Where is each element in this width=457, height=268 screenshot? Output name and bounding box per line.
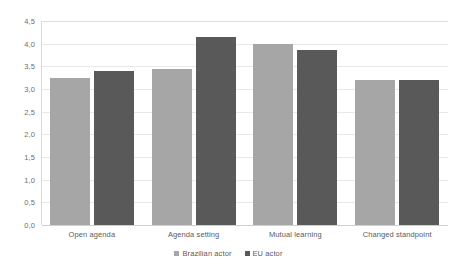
bar — [152, 69, 192, 225]
legend-swatch-icon — [174, 251, 179, 256]
y-tick-label: 1,5 — [24, 153, 35, 162]
bar — [94, 71, 134, 225]
bar — [253, 44, 293, 225]
legend-label: EU actor — [253, 249, 283, 258]
bar-group — [346, 21, 448, 225]
bars-layer — [41, 21, 448, 225]
bar — [297, 50, 337, 225]
chart-legend: Brazilian actorEU actor — [0, 249, 457, 258]
x-tick-label: Mutual learning — [269, 230, 322, 239]
legend-swatch-icon — [245, 251, 250, 256]
y-tick-label: 4,0 — [24, 39, 35, 48]
x-tick-label: Open agenda — [69, 230, 116, 239]
y-axis: 4,54,03,53,02,52,01,51,00,50,0 — [0, 0, 41, 246]
y-tick-label: 2,5 — [24, 107, 35, 116]
bar-group — [41, 21, 143, 225]
gridline — [42, 225, 448, 226]
x-axis: Open agendaAgenda settingMutual learning… — [41, 230, 448, 244]
legend-item[interactable]: EU actor — [245, 249, 283, 258]
legend-item[interactable]: Brazilian actor — [174, 249, 231, 258]
y-tick-label: 2,0 — [24, 130, 35, 139]
y-tick-label: 3,5 — [24, 62, 35, 71]
x-tick-label: Changed standpoint — [363, 230, 432, 239]
y-tick-label: 3,0 — [24, 85, 35, 94]
bar — [196, 37, 236, 225]
bar-chart: 4,54,03,53,02,52,01,51,00,50,0 Open agen… — [0, 0, 457, 268]
bar-group — [143, 21, 245, 225]
bar — [399, 80, 439, 225]
legend-label: Brazilian actor — [182, 249, 231, 258]
y-tick-label: 4,5 — [24, 17, 35, 26]
bar-group — [245, 21, 347, 225]
y-tick-label: 0,0 — [24, 221, 35, 230]
y-tick-label: 0,5 — [24, 198, 35, 207]
y-tick-label: 1,0 — [24, 175, 35, 184]
bar — [50, 78, 90, 225]
x-tick-label: Agenda setting — [168, 230, 219, 239]
bar — [355, 80, 395, 225]
